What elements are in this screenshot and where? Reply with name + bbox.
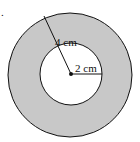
annulus-diagram: 4 cm 2 cm . (0, 0, 140, 142)
corner-mark: . (1, 6, 4, 18)
inner-radius-label: 2 cm (75, 62, 97, 74)
outer-radius-label: 4 cm (55, 36, 77, 48)
center-point (69, 72, 73, 76)
